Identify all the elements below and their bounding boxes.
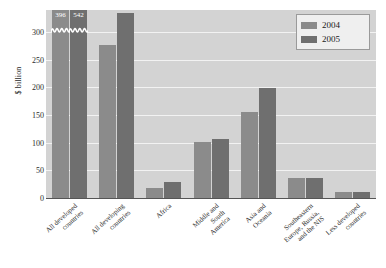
legend-item-2004: 2004	[301, 18, 365, 32]
legend-swatch-icon-2005	[301, 36, 317, 43]
x-tick-label-line: Africa	[155, 202, 174, 220]
legend-label-2004: 2004	[322, 20, 340, 30]
bar-chart-figure: $ billion 050100150200250300 396542 All …	[0, 0, 386, 268]
legend-item-2005: 2005	[301, 32, 365, 46]
legend: 2004 2005	[296, 14, 370, 50]
legend-label-2005: 2005	[322, 34, 340, 44]
legend-swatch-icon-2004	[301, 22, 317, 29]
